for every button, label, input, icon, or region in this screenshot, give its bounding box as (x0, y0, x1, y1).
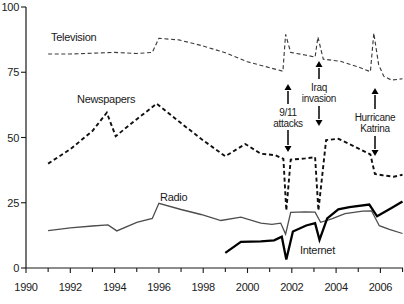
media-news-source-chart: 1990199219941996199820002002200420060255… (0, 0, 404, 304)
series-line-television (48, 33, 402, 80)
annotation-hurricane-katrina-down-arrow-head (372, 150, 379, 156)
annotation-9-11-attacks-up-arrow-head (285, 84, 292, 90)
annotation-9-11-attacks-down-arrow-head (285, 146, 292, 152)
annotation-hurricane-katrina-text: Katrina (360, 123, 390, 134)
series-label-television: Television (51, 31, 96, 43)
annotation-iraq-invasion-text: Iraq (311, 82, 327, 93)
series-label-internet: Internet (300, 244, 335, 256)
x-axis-tick-label: 1996 (147, 281, 170, 293)
x-axis-tick-label: 2004 (324, 281, 347, 293)
y-axis-tick-label: 75 (7, 66, 19, 78)
x-axis-tick-label: 1994 (103, 281, 126, 293)
x-axis-tick-label: 1990 (14, 281, 37, 293)
x-axis-tick-label: 2002 (280, 281, 303, 293)
annotation-9-11-attacks-text: attacks (273, 118, 303, 129)
axes (26, 7, 403, 268)
series-label-newspapers: Newspapers (77, 93, 136, 105)
x-axis-tick-label: 1998 (192, 281, 215, 293)
annotation-iraq-invasion-text: invasion (302, 93, 336, 104)
y-axis-tick-label: 25 (7, 197, 19, 209)
annotation-hurricane-katrina-text: Hurricane (355, 112, 396, 123)
y-axis-tick-label: 50 (7, 132, 19, 144)
annotation-iraq-invasion-up-arrow-head (316, 61, 323, 67)
series-label-radio: Radio (160, 191, 187, 203)
x-axis-tick-label: 2000 (236, 281, 259, 293)
x-axis-tick-label: 2006 (369, 281, 392, 293)
annotation-9-11-attacks-text: 9/11 (279, 107, 297, 118)
y-axis-tick-label: 100 (2, 1, 20, 13)
x-axis-tick-label: 1992 (59, 281, 82, 293)
series-line-newspapers (48, 104, 402, 211)
y-axis-tick-label: 0 (13, 262, 19, 274)
line-chart-canvas: 1990199219941996199820002002200420060255… (0, 0, 404, 304)
annotation-iraq-invasion-down-arrow-head (316, 120, 323, 126)
annotation-hurricane-katrina-up-arrow-head (372, 88, 379, 94)
